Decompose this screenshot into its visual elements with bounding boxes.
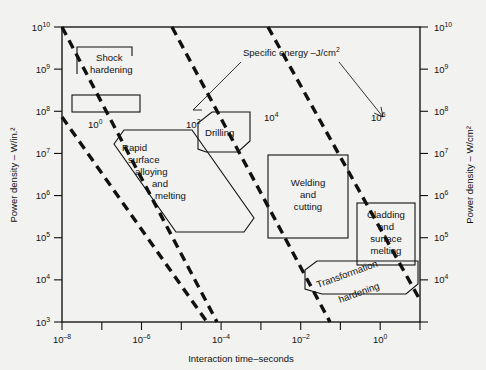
region-label-drilling: Drilling <box>205 127 234 138</box>
region-label-rapid-line-4: melting <box>155 190 186 201</box>
region-label-shock-hardening-line-0: Shock <box>96 52 123 63</box>
region-label-rapid-line-3: and <box>152 178 168 189</box>
region-label-cladding-line-2: surface <box>370 233 401 244</box>
region-label-welding-line-0: Welding <box>291 177 326 188</box>
region-label-welding-line-2: cutting <box>294 201 322 212</box>
x-axis-title: Interaction time–seconds <box>188 353 294 364</box>
region-label-cladding-line-1: and <box>378 221 394 232</box>
region-label-welding-line-1: and <box>300 189 316 200</box>
region-label-rapid-line-0: Rapid <box>122 142 147 153</box>
region-label-cladding-line-3: melting <box>371 245 402 256</box>
power-density-vs-interaction-time-chart: 1010 109 108 107 106 105 104 103 Power d… <box>0 0 486 370</box>
specific-energy-annotation: Specific energy –J/cm2 <box>243 46 340 58</box>
region-label-rapid-line-1: surface <box>128 154 159 165</box>
y-axis-right-title: Power density – W/cm² <box>464 126 475 224</box>
region-label-shock-hardening-line-1: hardening <box>90 64 133 75</box>
region-label-rapid-line-2: alloying <box>135 166 168 177</box>
region-label-cladding-line-0: Cladding <box>367 209 405 220</box>
y-axis-left-title: Power density – W/in.² <box>8 127 19 222</box>
